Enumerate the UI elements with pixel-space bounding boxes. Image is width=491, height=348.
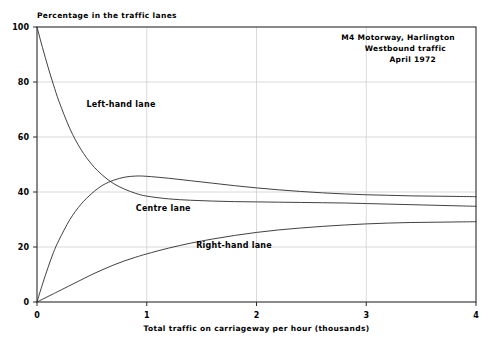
traffic-lane-percentage-chart: 01234 020406080100 Left-hand laneCentre … [0, 0, 491, 348]
annotation-line-2: Westbound traffic [365, 44, 446, 53]
x-tick-labels: 01234 [34, 311, 479, 320]
annotation-line-3: April 1972 [390, 55, 437, 64]
x-tick-label: 1 [144, 311, 150, 320]
x-tick-label: 0 [34, 311, 40, 320]
y-tick-label: 60 [18, 133, 30, 142]
annotation-line-1: M4 Motorway, Harlington [341, 33, 455, 42]
x-tick-label: 4 [473, 311, 479, 320]
series-label-left-hand-lane: Left-hand lane [86, 100, 156, 109]
x-tick-label: 3 [363, 311, 369, 320]
series-label-centre-lane: Centre lane [136, 204, 191, 213]
x-tick-label: 2 [254, 311, 260, 320]
y-tick-label: 40 [18, 188, 30, 197]
y-tick-label: 100 [12, 23, 29, 32]
series-label-right-hand-lane: Right-hand lane [196, 241, 272, 250]
y-tick-labels: 020406080100 [12, 23, 29, 307]
y-tick-label: 80 [18, 78, 30, 87]
chart-title: Percentage in the traffic lanes [37, 11, 177, 20]
x-axis-title: Total traffic on carriageway per hour (t… [144, 324, 370, 333]
y-tick-label: 0 [23, 298, 29, 307]
chart-figure: 01234 020406080100 Left-hand laneCentre … [0, 0, 491, 348]
y-tick-label: 20 [18, 243, 30, 252]
